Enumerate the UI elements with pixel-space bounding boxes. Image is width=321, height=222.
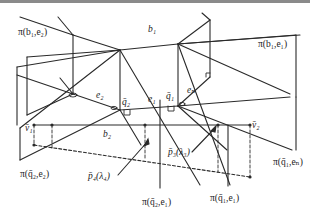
label-en: eₙ bbox=[187, 86, 195, 96]
label-q1: q̄₁ bbox=[166, 92, 174, 102]
right-angle-mark bbox=[124, 110, 130, 115]
label-p4: p̄₄(λ₄) bbox=[88, 172, 110, 182]
slant-line bbox=[178, 44, 230, 185]
plane-edge bbox=[17, 50, 120, 67]
geometry-diagram bbox=[0, 0, 321, 222]
label-pi-b1-e2: π(b₁,e₂) bbox=[18, 28, 47, 38]
label-pi-b1-e1: π(b₁,e₁) bbox=[258, 40, 287, 50]
slant-line bbox=[178, 106, 292, 150]
label-v2: v̄₂ bbox=[252, 121, 260, 131]
slant-line bbox=[120, 110, 141, 145]
label-v1: v̄₁ bbox=[25, 124, 33, 134]
plane-edge bbox=[178, 97, 290, 106]
edge-line bbox=[73, 35, 120, 50]
label-e2: e₂ bbox=[96, 91, 104, 101]
label-e1: e₁ bbox=[148, 95, 156, 105]
label-b1: b₁ bbox=[148, 25, 156, 35]
label-pi-q2-e2: π(q̄₂,e₂) bbox=[20, 170, 49, 180]
edge-line bbox=[178, 20, 210, 44]
label-pi-q1-en: π(q̄₁,eₙ) bbox=[273, 158, 303, 168]
edge-b1 bbox=[120, 44, 178, 50]
label-pi-q2-e1: π(q̄₂,e₁) bbox=[142, 198, 171, 208]
right-angle-mark bbox=[206, 73, 210, 77]
label-p3: p̄₃(λ₃) bbox=[168, 148, 190, 158]
plane-edge bbox=[20, 50, 120, 128]
label-pi-q1-e1: π(q̄₁,e₁) bbox=[210, 194, 239, 204]
edge-line bbox=[202, 13, 210, 20]
label-q2: q̄₂ bbox=[122, 98, 130, 108]
arrow-head bbox=[211, 126, 216, 132]
slant-line bbox=[178, 106, 227, 150]
label-b2: b₂ bbox=[103, 130, 111, 140]
